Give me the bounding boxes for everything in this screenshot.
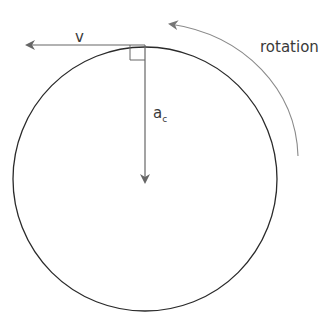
rotation-label: rotation: [260, 38, 319, 56]
acceleration-symbol: a: [153, 104, 162, 122]
velocity-label: v: [75, 28, 84, 46]
centripetal-acceleration-label: ac: [153, 104, 167, 124]
acceleration-subscript: c: [162, 114, 167, 124]
